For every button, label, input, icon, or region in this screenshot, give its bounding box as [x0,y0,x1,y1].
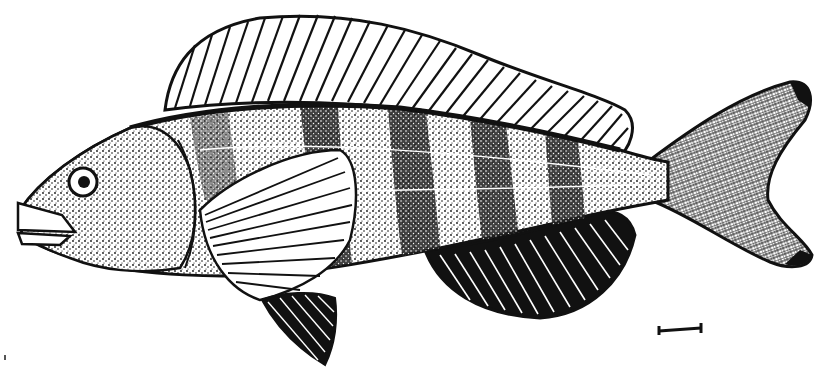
head [18,126,195,271]
pelvic-fin [262,293,336,365]
eye [69,168,97,196]
fish-illustration [0,0,829,378]
caudal-fin [650,82,812,267]
stray-mark [4,355,6,360]
scale-bar [659,323,701,335]
fish-drawing [0,0,829,378]
